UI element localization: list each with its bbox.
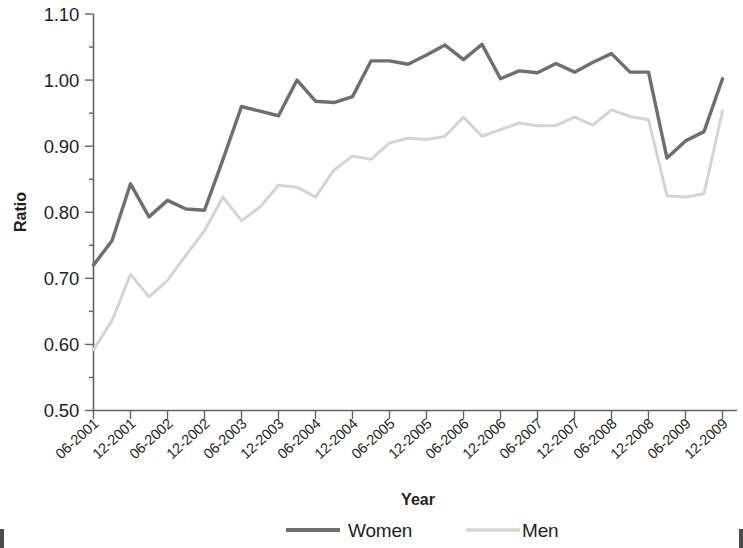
data-series-group bbox=[94, 44, 723, 349]
x-axis-title: Year bbox=[401, 491, 435, 508]
y-axis-title: Ratio bbox=[12, 192, 29, 232]
x-axis-ticks: 06-200112-200106-200212-200206-200312-20… bbox=[52, 411, 730, 462]
page-edge-mark-right bbox=[739, 529, 743, 548]
series-line-men bbox=[94, 110, 723, 350]
line-chart-plot: 0.500.600.700.800.901.001.10 06-200112-2… bbox=[0, 0, 743, 548]
series-line-women bbox=[94, 44, 723, 265]
y-axis-ticks: 0.500.600.700.800.901.001.10 bbox=[44, 4, 94, 422]
y-tick-label: 1.00 bbox=[44, 70, 79, 91]
y-tick-label: 0.90 bbox=[44, 136, 79, 157]
chart-figure: 0.500.600.700.800.901.001.10 06-200112-2… bbox=[0, 0, 743, 548]
chart-legend: WomenMen bbox=[286, 520, 558, 541]
legend-label-women: Women bbox=[348, 520, 412, 541]
page-edge-mark-left bbox=[0, 529, 4, 548]
y-tick-label: 0.50 bbox=[44, 400, 79, 421]
y-tick-label: 0.80 bbox=[44, 202, 79, 223]
y-tick-label: 0.70 bbox=[44, 268, 79, 289]
y-tick-label: 0.60 bbox=[44, 334, 79, 355]
y-tick-label: 1.10 bbox=[44, 4, 79, 25]
legend-label-men: Men bbox=[522, 520, 558, 541]
